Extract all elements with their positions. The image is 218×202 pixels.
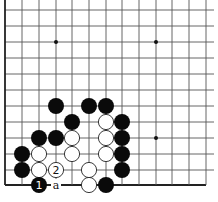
black-stone [114, 130, 130, 146]
white-stone-disc [98, 130, 113, 145]
black-stone [14, 146, 30, 162]
black-stone-disc [114, 146, 130, 162]
black-stone [48, 130, 64, 146]
black-stone [114, 114, 130, 130]
black-stone [114, 162, 130, 178]
black-stone [64, 114, 80, 130]
point-labels: a [51, 179, 61, 192]
black-stone-disc [98, 98, 114, 114]
white-stone-disc [81, 177, 96, 192]
white-stone: 2 [48, 162, 63, 177]
white-stone [31, 146, 46, 161]
white-stone-disc [98, 146, 113, 161]
black-stone [31, 130, 47, 146]
white-stone [81, 177, 96, 192]
white-stone-disc [64, 146, 79, 161]
white-stone [98, 114, 113, 129]
star-point [154, 40, 158, 44]
black-stone-disc [114, 162, 130, 178]
white-stone [64, 146, 79, 161]
white-stone [31, 162, 46, 177]
black-stone-disc [14, 162, 30, 178]
move-number: 1 [36, 179, 43, 192]
white-stone-disc [64, 130, 79, 145]
black-stone [81, 98, 97, 114]
white-stone [98, 146, 113, 161]
black-stone [98, 98, 114, 114]
white-stone [98, 130, 113, 145]
white-stone-disc [81, 162, 96, 177]
black-stone-disc [14, 146, 30, 162]
white-stone [81, 162, 96, 177]
black-stone [14, 162, 30, 178]
black-stone: 1 [31, 177, 47, 193]
black-stone-disc [98, 177, 114, 193]
black-stone-disc [114, 130, 130, 146]
move-number: 2 [53, 164, 60, 177]
black-stone-disc [31, 130, 47, 146]
black-stone [48, 98, 64, 114]
go-board: 21 a [0, 0, 218, 202]
black-stone-disc [48, 130, 64, 146]
white-stone-disc [31, 162, 46, 177]
black-stone-disc [64, 114, 80, 130]
star-point [154, 136, 158, 140]
black-stone-disc [114, 114, 130, 130]
black-stone-disc [81, 98, 97, 114]
white-stone-disc [31, 146, 46, 161]
star-point [54, 40, 58, 44]
black-stone-disc [48, 98, 64, 114]
black-stone [98, 177, 114, 193]
white-stone [64, 130, 79, 145]
black-stone [114, 146, 130, 162]
point-label: a [53, 179, 60, 192]
white-stone-disc [98, 114, 113, 129]
